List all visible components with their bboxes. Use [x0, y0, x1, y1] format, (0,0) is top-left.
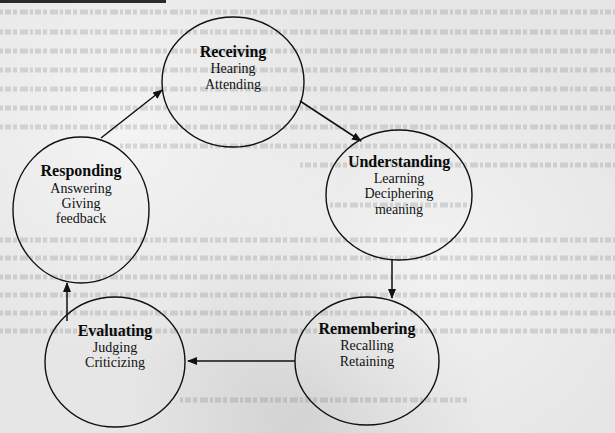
- node-responding-line-1: Answering: [50, 181, 111, 196]
- node-receiving-title: Receiving: [200, 43, 267, 61]
- node-understanding-line-1: Learning: [374, 171, 425, 186]
- arrow-receiving-to-understanding: [300, 101, 361, 141]
- arrow-responding-to-receiving: [101, 90, 162, 138]
- node-remembering: Remembering Recalling Retaining: [295, 297, 439, 425]
- node-responding-title: Responding: [41, 162, 122, 180]
- listening-process-diagram: Receiving Hearing Attending Understandin…: [0, 0, 615, 433]
- node-evaluating-line-1: Judging: [93, 340, 137, 355]
- node-remembering-line-2: Retaining: [340, 354, 394, 369]
- node-remembering-title: Remembering: [319, 320, 416, 338]
- node-responding-line-2: Giving: [62, 196, 101, 211]
- node-understanding-line-2: Deciphering: [364, 186, 433, 201]
- node-understanding-line-3: meaning: [375, 202, 423, 217]
- node-receiving-line-1: Hearing: [210, 61, 255, 76]
- node-understanding-title: Understanding: [348, 153, 450, 171]
- node-responding-line-3: feedback: [56, 211, 107, 226]
- node-evaluating-line-2: Criticizing: [85, 355, 145, 370]
- node-responding: Responding Answering Giving feedback: [13, 137, 149, 283]
- node-evaluating-title: Evaluating: [78, 322, 153, 340]
- node-receiving: Receiving Hearing Attending: [162, 17, 304, 147]
- node-receiving-line-2: Attending: [205, 77, 261, 92]
- node-evaluating: Evaluating Judging Criticizing: [45, 297, 185, 427]
- node-remembering-line-1: Recalling: [340, 338, 394, 353]
- node-understanding: Understanding Learning Deciphering meani…: [326, 130, 472, 260]
